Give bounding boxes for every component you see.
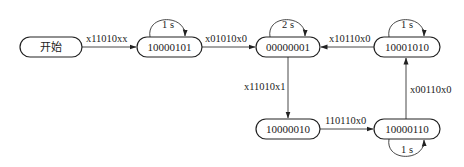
state-node-s4: 10000010 [256,119,320,139]
node-label: 10000010 [266,123,311,135]
edge-s3-to-s2: x10110x0 [321,33,374,47]
edge-s5-to-s3: x00110x0 [406,58,452,119]
self-loop-s5: 1 s [389,139,424,156]
edge-s4-to-s5: 110110x0 [320,115,373,129]
loop-label: 2 s [282,19,294,30]
edge-label: x01010x0 [205,33,247,44]
edge-label: x11010xx [86,33,128,44]
state-node-s1: 10000101 [137,37,202,57]
state-diagram: x11010xx x01010x0 x10110x0 x11010x1 1101… [0,0,464,167]
edge-start-to-s1: x11010xx [82,33,136,47]
node-label: 10000110 [385,123,429,135]
loop-label: 1 s [401,144,413,155]
edge-label: 110110x0 [325,115,366,126]
state-node-s2: 00000001 [256,37,320,57]
edge-label: x10110x0 [329,33,371,44]
state-node-start: 开始 [20,37,82,57]
state-node-s5: 10000110 [374,119,440,139]
loop-label: 1 s [401,19,413,30]
node-label: 00000001 [266,41,310,53]
self-loop-s3: 1 s [389,19,424,37]
state-node-s3: 10001010 [374,37,440,57]
node-label: 10000101 [148,41,192,53]
edge-s1-to-s2: x01010x0 [202,33,255,47]
edge-label: x11010x1 [244,81,286,92]
node-label: 10001010 [385,41,430,53]
self-loop-s1: 1 s [150,19,185,37]
self-loop-s2: 2 s [270,19,305,37]
edge-label: x00110x0 [410,84,452,95]
edge-s2-to-s4: x11010x1 [244,57,288,118]
loop-label: 1 s [162,19,174,30]
node-label: 开始 [40,40,62,53]
